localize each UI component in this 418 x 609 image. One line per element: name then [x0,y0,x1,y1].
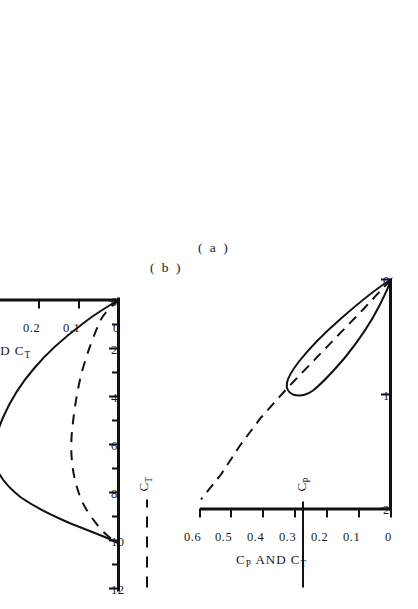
panel-b-curves [0,0,418,609]
figure-rotated-content: CP CT 0 1 2 [0,0,418,609]
panel-b-curve-cp [0,299,119,543]
panel-b-curve-ct [71,299,119,543]
figure-canvas: CP CT 0 1 2 [0,0,418,609]
panel-b: 0 2 4 6 8 10 12 0 0.1 0.2 0.3 0.4 0.5 CP… [0,0,418,609]
